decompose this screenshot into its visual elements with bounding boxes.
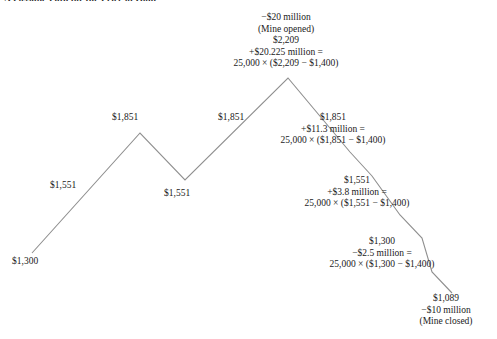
annotation-1851-line-3: 25,000 × ($1,851 − $1,400) [248, 135, 418, 147]
annotation-1851-line-2: +$11.3 million = [248, 124, 418, 136]
annotation-1551-line-3: 25,000 × ($1,551 − $1,400) [272, 198, 442, 210]
annotation-peak-line-3: $2,209 [206, 35, 366, 47]
node-label-1551-first: $1,551 [50, 180, 76, 192]
annotation-1089-mine-closed: $1,089 −$10 million (Mine closed) [398, 293, 494, 328]
annotation-1300-line-3: 25,000 × ($1,300 − $1,400) [297, 259, 467, 271]
node-label-1300-start: $1,300 [12, 256, 38, 268]
annotation-1089-line-1: $1,089 [398, 293, 494, 305]
annotation-peak-mine-opened: −$20 million (Mine opened) $2,209 +$20.2… [206, 12, 366, 70]
annotation-1089-line-3: (Mine closed) [398, 316, 494, 328]
annotation-peak-line-5: 25,000 × ($2,209 − $1,400) [206, 58, 366, 70]
annotation-1551: $1,551 +$3.8 million = 25,000 × ($1,551 … [272, 175, 442, 210]
annotation-1300: $1,300 −$2.5 million = 25,000 × ($1,300 … [297, 236, 467, 271]
annotation-1089-line-2: −$10 million [398, 305, 494, 317]
annotation-1300-line-1: $1,300 [297, 236, 467, 248]
annotation-peak-line-4: +$20.225 million = [206, 47, 366, 59]
annotation-1851-line-1: $1,851 [248, 112, 418, 124]
node-label-1551-second: $1,551 [164, 188, 190, 200]
node-label-1851-first: $1,851 [112, 112, 138, 124]
figure-canvas: A Possible Path for the Price of Gold $1… [0, 0, 497, 339]
annotation-1551-line-1: $1,551 [272, 175, 442, 187]
annotation-1300-line-2: −$2.5 million = [297, 248, 467, 260]
annotation-1851: $1,851 +$11.3 million = 25,000 × ($1,851… [248, 112, 418, 147]
annotation-1551-line-2: +$3.8 million = [272, 187, 442, 199]
node-label-1851-second: $1,851 [218, 112, 244, 124]
annotation-peak-line-2: (Mine opened) [206, 24, 366, 36]
annotation-peak-line-1: −$20 million [206, 12, 366, 24]
